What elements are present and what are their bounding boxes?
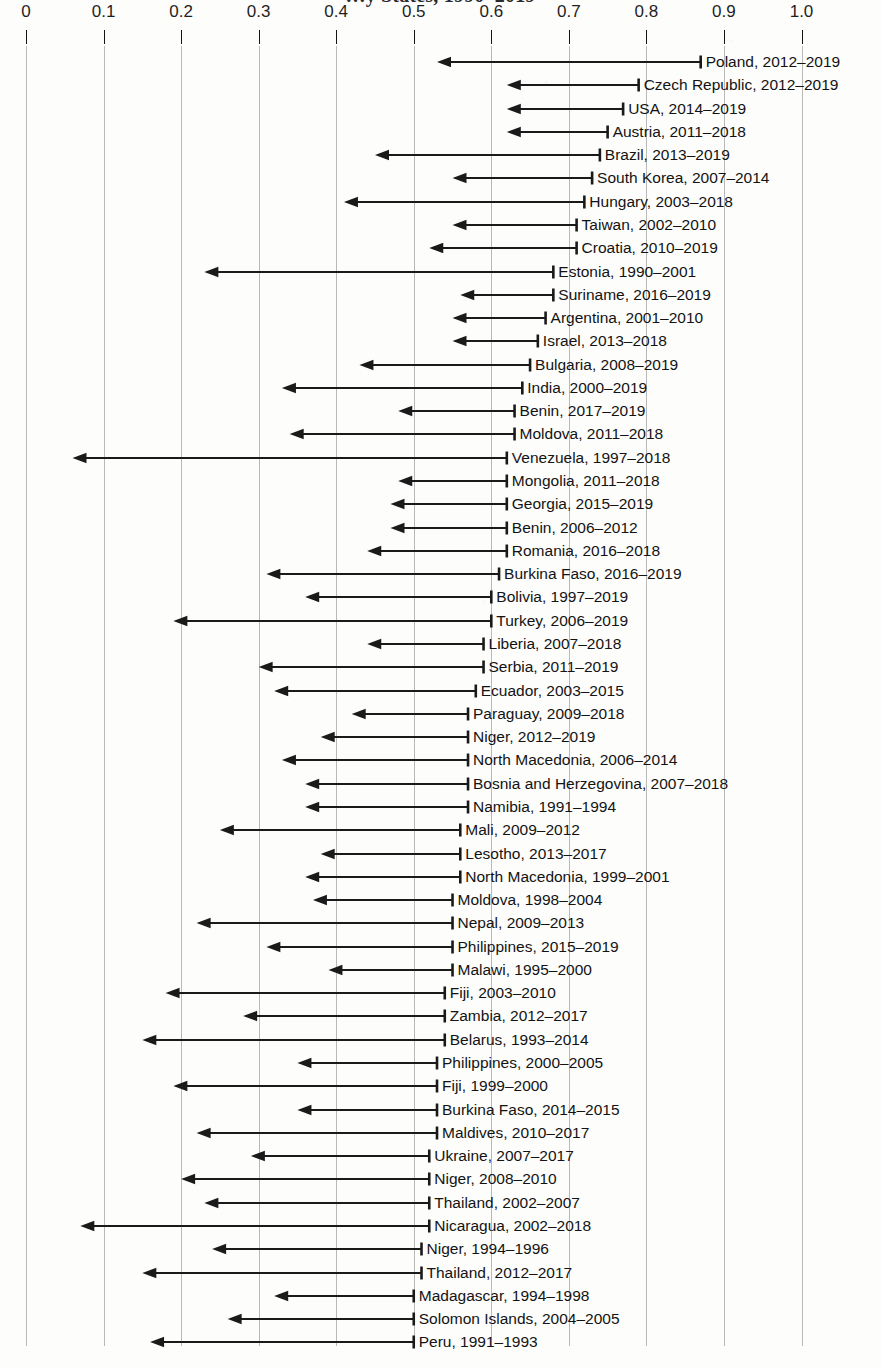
row-label: Poland, 2012–2019 [706,54,840,69]
decline-arrow [0,913,881,933]
chart-row: Mali, 2009–2012 [0,820,881,840]
plot-area: Poland, 2012–2019Czech Republic, 2012–20… [0,0,881,1368]
decline-arrow [0,122,881,142]
chart-row: South Korea, 2007–2014 [0,168,881,188]
chart-row: Estonia, 1990–2001 [0,262,881,282]
chart-row: Austria, 2011–2018 [0,122,881,142]
chart-row: India, 2000–2019 [0,378,881,398]
arrow-head [507,80,521,90]
row-label: Brazil, 2013–2019 [605,147,730,162]
arrow-head [142,1267,156,1277]
arrow-head [359,359,373,369]
arrow-head [453,313,467,323]
chart-row: North Macedonia, 1999–2001 [0,867,881,887]
chart-row: Philippines, 2015–2019 [0,937,881,957]
row-label: Niger, 2012–2019 [473,729,595,744]
row-label: Belarus, 1993–2014 [450,1032,589,1047]
arrow-head [282,755,296,765]
row-label: Croatia, 2010–2019 [582,240,718,255]
chart-row: Israel, 2013–2018 [0,331,881,351]
row-label: Solomon Islands, 2004–2005 [419,1311,620,1326]
decline-arrow [0,541,881,561]
decline-arrow [0,750,881,770]
arrow-head [142,1035,156,1045]
row-label: Lesotho, 2013–2017 [465,846,606,861]
decline-arrow [0,471,881,491]
row-label: Philippines, 2015–2019 [458,939,619,954]
chart-row: Zambia, 2012–2017 [0,1006,881,1026]
row-label: Moldova, 1998–2004 [458,892,603,907]
arrow-head [204,1198,218,1208]
arrow-head [166,988,180,998]
row-label: Nepal, 2009–2013 [458,915,585,930]
arrow-head [80,1221,94,1231]
row-label: Serbia, 2011–2019 [489,659,619,674]
decline-arrow [0,727,881,747]
arrow-head [437,57,451,67]
chart-row: Maldives, 2010–2017 [0,1123,881,1143]
arrow-head [321,732,335,742]
row-label: Ecuador, 2003–2015 [481,683,624,698]
decline-arrow [0,611,881,631]
chart-row: Turkey, 2006–2019 [0,611,881,631]
chart-row: Benin, 2006–2012 [0,518,881,538]
row-label: Burkina Faso, 2016–2019 [504,566,682,581]
row-label: Liberia, 2007–2018 [489,636,622,651]
chart-row: Lesotho, 2013–2017 [0,844,881,864]
decline-arrow [0,378,881,398]
chart-row: Burkina Faso, 2014–2015 [0,1100,881,1120]
arrow-head [375,150,389,160]
arrow-head [398,406,412,416]
chart-row: Nicaragua, 2002–2018 [0,1216,881,1236]
arrow-head [274,1291,288,1301]
chart-row: Nepal, 2009–2013 [0,913,881,933]
decline-arrow [0,634,881,654]
row-label: Venezuela, 1997–2018 [512,450,671,465]
arrow-head [181,1174,195,1184]
decline-arrow [0,1076,881,1096]
chart-row: Burkina Faso, 2016–2019 [0,564,881,584]
row-label: Ukraine, 2007–2017 [434,1148,574,1163]
decline-arrow [0,890,881,910]
decline-arrow [0,587,881,607]
arrow-head [453,220,467,230]
decline-arrow [0,518,881,538]
arrow-head [352,709,366,719]
chart-row: Liberia, 2007–2018 [0,634,881,654]
decline-arrow [0,564,881,584]
arrow-head [507,127,521,137]
row-label: Estonia, 1990–2001 [558,264,696,279]
decline-arrow [0,448,881,468]
chart-row: Malawi, 1995–2000 [0,960,881,980]
row-label: Argentina, 2001–2010 [551,310,704,325]
chart-row: Bolivia, 1997–2019 [0,587,881,607]
decline-arrow [0,215,881,235]
chart-row: Solomon Islands, 2004–2005 [0,1309,881,1329]
chart-row: Niger, 2012–2019 [0,727,881,747]
row-label: North Macedonia, 1999–2001 [465,869,669,884]
chart-row: Mongolia, 2011–2018 [0,471,881,491]
row-label: Hungary, 2003–2018 [589,194,733,209]
arrow-head [266,569,280,579]
chart-row: Brazil, 2013–2019 [0,145,881,165]
chart-row: Fiji, 2003–2010 [0,983,881,1003]
decline-arrow [0,192,881,212]
chart-row: Georgia, 2015–2019 [0,494,881,514]
decline-arrow [0,774,881,794]
chart-row: Thailand, 2012–2017 [0,1263,881,1283]
arrow-head [266,941,280,951]
decline-arrow [0,99,881,119]
arrow-head [453,336,467,346]
chart-row: Moldova, 1998–2004 [0,890,881,910]
row-label: North Macedonia, 2006–2014 [473,752,677,767]
chart-row: Belarus, 1993–2014 [0,1030,881,1050]
chart-row: Niger, 1994–1996 [0,1239,881,1259]
chart-row: Ecuador, 2003–2015 [0,681,881,701]
row-label: South Korea, 2007–2014 [597,170,769,185]
row-label: India, 2000–2019 [527,380,647,395]
row-label: Georgia, 2015–2019 [512,496,653,511]
chart-row: Paraguay, 2009–2018 [0,704,881,724]
row-label: Fiji, 2003–2010 [450,985,556,1000]
row-label: Paraguay, 2009–2018 [473,706,624,721]
row-label: Austria, 2011–2018 [613,124,746,139]
